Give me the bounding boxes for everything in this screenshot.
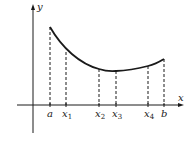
label-b: b (161, 108, 167, 119)
x-axis-label: x (178, 92, 184, 103)
label-x1: x1 (62, 108, 72, 121)
label-a: a (47, 108, 53, 119)
label-x4: x4 (144, 108, 155, 121)
label-x3: x3 (112, 108, 122, 121)
y-axis-arrow-icon (31, 4, 35, 10)
function-graph: y x a x1 x2 x3 x4 b (0, 0, 192, 143)
label-x2: x2 (95, 108, 105, 121)
x-axis-arrow-icon (178, 103, 184, 107)
function-curve (50, 27, 164, 71)
y-axis-label: y (36, 1, 43, 12)
